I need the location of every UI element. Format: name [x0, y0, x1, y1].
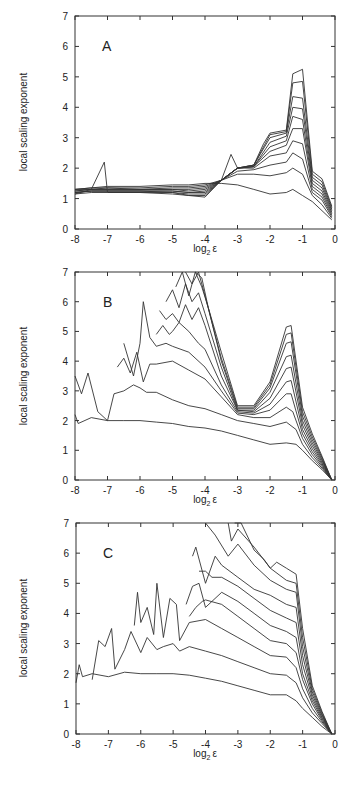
x-tick-label: -6 — [136, 485, 145, 496]
panel-c-x-axis-label: log2ε — [193, 748, 217, 761]
x-tick-label: -8 — [71, 485, 80, 496]
curve-10 — [195, 272, 331, 480]
x-tick-label: -7 — [104, 739, 113, 750]
figure: -8-7-6-5-4-3-2-1001234567 A local scalin… — [0, 0, 350, 791]
y-tick-label: 5 — [63, 578, 69, 589]
y-tick-label: 0 — [63, 729, 69, 740]
x-tick-label: -8 — [72, 739, 81, 750]
panel-a-y-axis-label: local scaling exponent — [18, 73, 29, 172]
y-tick-label: 3 — [62, 133, 68, 144]
y-tick-label: 2 — [62, 416, 68, 427]
panel-a-x-axis-label: log2ε — [193, 243, 217, 256]
curve-10 — [75, 69, 332, 206]
curve-5 — [186, 583, 332, 734]
x-tick-label: -2 — [266, 485, 275, 496]
y-tick-label: 4 — [62, 356, 68, 367]
y-tick-label: 7 — [63, 518, 69, 529]
curve-1 — [75, 183, 332, 220]
y-tick-label: 2 — [62, 163, 68, 174]
curve-2 — [75, 168, 332, 218]
panel-a: -8-7-6-5-4-3-2-1001234567 A local scalin… — [18, 11, 338, 256]
panel-c-y-axis-label: local scaling exponent — [18, 579, 29, 678]
curve-4 — [75, 141, 332, 216]
panel-c: -8-7-6-5-4-3-2-1001234567 C local scalin… — [18, 518, 338, 761]
curve-3 — [134, 583, 331, 734]
y-tick-label: 4 — [63, 608, 69, 619]
y-tick-label: 4 — [62, 102, 68, 113]
y-tick-label: 2 — [63, 669, 69, 680]
panel-a-letter: A — [102, 38, 112, 54]
x-tick-label: 0 — [332, 485, 338, 496]
y-tick-label: 1 — [63, 699, 69, 710]
panel-c-letter: C — [103, 545, 113, 561]
x-tick-label: -5 — [168, 234, 177, 245]
x-tick-label: -6 — [136, 739, 145, 750]
panel-b-y-axis-label: local scaling exponent — [18, 327, 29, 426]
x-tick-label: -3 — [233, 234, 242, 245]
x-tick-label: -7 — [103, 485, 112, 496]
x-tick-label: -8 — [71, 234, 80, 245]
x-tick-label: -2 — [266, 234, 275, 245]
panel-c-curves — [76, 523, 332, 734]
curve-5 — [156, 323, 331, 481]
x-tick-label: 0 — [332, 234, 338, 245]
x-tick-label: -5 — [169, 739, 178, 750]
y-tick-label: 7 — [62, 11, 68, 22]
y-tick-label: 0 — [62, 475, 68, 486]
y-tick-label: 7 — [62, 267, 68, 278]
x-tick-label: -1 — [298, 739, 307, 750]
y-tick-label: 6 — [63, 548, 69, 559]
curve-1 — [75, 415, 332, 480]
panel-b-x-axis-label: log2ε — [193, 494, 217, 507]
panel-b-letter: B — [103, 294, 112, 310]
panel-a-curves — [75, 69, 332, 220]
x-tick-label: -3 — [233, 485, 242, 496]
y-tick-label: 3 — [62, 386, 68, 397]
y-tick-label: 6 — [62, 297, 68, 308]
panel-b-curves — [75, 272, 332, 480]
x-tick-label: -5 — [168, 485, 177, 496]
panel-c-frame — [76, 523, 335, 734]
y-tick-label: 5 — [62, 326, 68, 337]
x-tick-label: -1 — [298, 485, 307, 496]
curve-4 — [189, 600, 331, 734]
x-tick-label: 0 — [332, 739, 338, 750]
curve-6 — [75, 116, 332, 212]
y-tick-label: 6 — [62, 41, 68, 52]
curve-2 — [92, 629, 332, 735]
y-tick-label: 1 — [62, 445, 68, 456]
y-tick-label: 0 — [62, 224, 68, 235]
x-tick-label: -6 — [136, 234, 145, 245]
y-tick-label: 3 — [63, 639, 69, 650]
curve-1 — [76, 665, 332, 734]
x-tick-label: -2 — [266, 739, 275, 750]
x-tick-label: -1 — [298, 234, 307, 245]
x-tick-label: -3 — [233, 739, 242, 750]
y-tick-label: 1 — [62, 194, 68, 205]
curve-9 — [75, 81, 332, 207]
y-tick-label: 5 — [62, 72, 68, 83]
x-tick-label: -7 — [103, 234, 112, 245]
panel-b: -8-7-6-5-4-3-2-1001234567 B local scalin… — [18, 267, 338, 507]
